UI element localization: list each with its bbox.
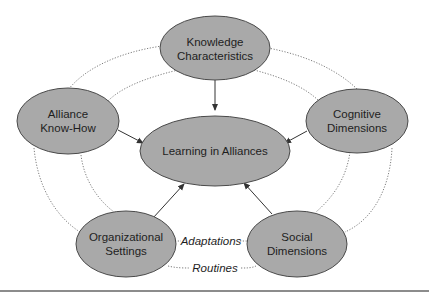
arrow-cognitive-to-center xyxy=(285,131,307,143)
node-label-line1: Knowledge xyxy=(187,36,244,48)
outer-arc-org-to-social-routines-right xyxy=(241,266,256,268)
node-organizational-settings: Organizational Settings xyxy=(76,211,176,277)
node-label-line2: Know-How xyxy=(40,122,96,134)
inner-arc-cognitive-to-social xyxy=(316,152,350,212)
center-node-label: Learning in Alliances xyxy=(162,145,268,157)
node-label-line2: Characteristics xyxy=(177,50,253,62)
outer-arc-alliance-to-organizational xyxy=(34,148,80,232)
node-label-line1: Alliance xyxy=(48,108,88,120)
inner-arc-knowledge-to-cognitive xyxy=(254,70,318,100)
node-label-line2: Dimensions xyxy=(327,122,387,134)
outer-arc-org-to-social-routines-left xyxy=(168,266,190,268)
outer-arc-knowledge-to-cognitive xyxy=(268,48,358,90)
node-learning-in-alliances: Learning in Alliances xyxy=(140,116,290,186)
outer-arc-knowledge-to-alliance xyxy=(68,46,162,90)
inner-arc-knowledge-to-alliance xyxy=(107,70,178,102)
arrow-social-to-center xyxy=(244,183,272,214)
node-label-line2: Settings xyxy=(105,245,147,257)
arrow-organizational-to-center xyxy=(153,184,184,218)
node-cognitive-dimensions: Cognitive Dimensions xyxy=(306,89,408,153)
outer-arc-cognitive-to-social xyxy=(345,148,392,232)
arrow-alliance-to-center xyxy=(118,130,143,143)
node-knowledge-characteristics: Knowledge Characteristics xyxy=(160,16,270,80)
relation-label-routines: Routines xyxy=(192,262,238,274)
bottom-divider xyxy=(0,290,429,292)
learning-in-alliances-diagram: Knowledge Characteristics Alliance Know-… xyxy=(0,0,429,294)
node-social-dimensions: Social Dimensions xyxy=(247,211,347,277)
node-label-line2: Dimensions xyxy=(267,245,327,257)
relation-label-adaptations: Adaptations xyxy=(180,235,242,247)
node-label-line1: Social xyxy=(281,231,312,243)
node-label-line1: Cognitive xyxy=(333,108,381,120)
node-alliance-know-how: Alliance Know-How xyxy=(17,88,119,154)
node-label-line1: Organizational xyxy=(89,231,163,243)
inner-arc-alliance-to-organizational xyxy=(81,155,114,212)
